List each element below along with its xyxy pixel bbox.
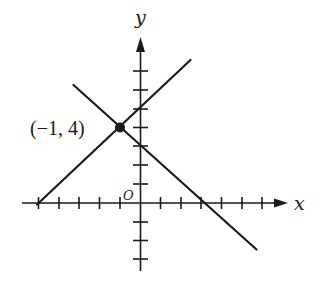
intersection-point [115, 123, 125, 133]
intersection-label: (−1, 4) [30, 117, 85, 140]
decreasing-line [74, 85, 257, 250]
x-axis-arrow-icon [274, 199, 288, 208]
y-axis: y [133, 6, 148, 271]
y-axis-label: y [134, 6, 146, 28]
origin-label: O [123, 188, 134, 203]
x-axis: x [22, 192, 305, 214]
coordinate-plane-diagram: x y O (−1, 4) [0, 0, 325, 290]
x-axis-label: x [294, 192, 305, 214]
y-axis-arrow-icon [136, 37, 145, 52]
